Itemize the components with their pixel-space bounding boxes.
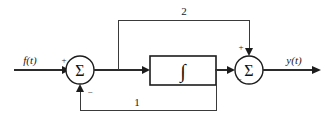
integrator-input-arrowhead-icon (142, 66, 150, 74)
right-summer-minus-sign: − (236, 74, 241, 84)
output-wire-group (263, 66, 321, 74)
left-summer-sigma-symbol: Σ (75, 62, 84, 79)
input-signal-label: f(t) (23, 54, 37, 67)
integrator-block-group: ∫ (150, 56, 216, 85)
block-diagram-canvas: Σ ∫ Σ (0, 0, 331, 133)
feedforward-gain-label: 2 (181, 5, 187, 17)
feedback-gain-label: 1 (134, 96, 140, 108)
right-summer-west-arrowhead-icon (227, 66, 235, 74)
right-summer-plus-sign: + (238, 42, 243, 52)
right-summer-north-arrowhead-icon (245, 48, 253, 56)
output-arrowhead-icon (312, 66, 321, 74)
left-summer-plus-sign: + (61, 55, 66, 65)
output-signal-label: y(t) (285, 54, 302, 67)
block-diagram-svg: Σ ∫ Σ (0, 0, 331, 133)
left-summer-minus-sign: − (87, 87, 92, 97)
left-summer-south-arrowhead-icon (76, 84, 84, 92)
integrator-output-wire-group (215, 66, 235, 74)
right-summer-sigma-symbol: Σ (244, 62, 253, 79)
forward-wire-group (94, 66, 150, 74)
left-summer-group: Σ (66, 56, 94, 84)
input-wire-group (14, 66, 70, 74)
